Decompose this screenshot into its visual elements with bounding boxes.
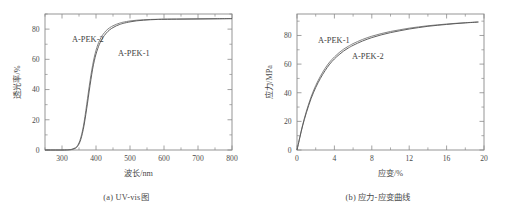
x-tick-label: 400 — [90, 154, 102, 163]
x-tick-label: 20 — [480, 154, 488, 163]
y-tick-label: 40 — [284, 89, 292, 98]
y-axis-title: 应力/MPa — [264, 65, 274, 99]
figure-container: 300400500600700800020406080A-PEK-2A-PEK-… — [0, 0, 505, 219]
x-tick-label: 500 — [124, 154, 136, 163]
y-tick-label: 80 — [284, 31, 292, 40]
x-axis-title: 应变/% — [378, 168, 403, 178]
y-axis-title: 透光率/% — [12, 65, 22, 98]
x-tick-label: 300 — [56, 154, 68, 163]
chart-panel-a: 300400500600700800020406080A-PEK-2A-PEK-… — [0, 0, 252, 219]
x-tick-label: 800 — [226, 154, 238, 163]
x-tick-label: 0 — [295, 154, 299, 163]
chart-panel-b: 048121620020406080A-PEK-1A-PEK-2应变/%应力/M… — [252, 0, 504, 219]
y-tick-label: 60 — [32, 55, 40, 64]
series-label-a-pek-2: A-PEK-2 — [72, 35, 104, 44]
y-tick-label: 20 — [284, 117, 292, 126]
x-tick-label: 16 — [443, 154, 451, 163]
y-tick-label: 40 — [32, 85, 40, 94]
panel-a-caption: (a) UV-vis图 — [0, 190, 252, 202]
x-tick-label: 12 — [405, 154, 413, 163]
x-axis-title: 波长/nm — [124, 168, 153, 178]
x-tick-label: 8 — [370, 154, 374, 163]
x-tick-label: 700 — [192, 154, 204, 163]
y-tick-label: 20 — [32, 116, 40, 125]
panel-b-caption: (b) 应力-应变曲线 — [252, 190, 504, 202]
series-label-a-pek-2: A-PEK-2 — [352, 52, 384, 61]
x-tick-label: 4 — [333, 154, 337, 163]
y-tick-label: 60 — [284, 60, 292, 69]
y-tick-label: 0 — [288, 146, 292, 155]
uv-vis-plot: 300400500600700800020406080A-PEK-2A-PEK-… — [0, 0, 252, 178]
series-label-a-pek-1: A-PEK-1 — [118, 49, 150, 58]
y-tick-label: 0 — [36, 146, 40, 155]
stress-strain-plot: 048121620020406080A-PEK-1A-PEK-2应变/%应力/M… — [252, 0, 504, 178]
y-tick-label: 80 — [32, 25, 40, 34]
x-tick-label: 600 — [158, 154, 170, 163]
series-label-a-pek-1: A-PEK-1 — [318, 36, 350, 45]
plot-frame — [297, 14, 484, 150]
